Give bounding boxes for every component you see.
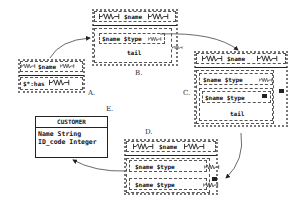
box-c-header-text: $name	[227, 55, 245, 62]
box-a-header-text: $name	[38, 63, 56, 70]
box-d-row2-text: $name $type	[135, 181, 175, 188]
box-a-body-text: $*:has	[23, 80, 45, 87]
customer-entity: CUSTOMER Name String ID_code Integer	[35, 116, 108, 158]
box-c-row2-text: $name $type	[205, 94, 245, 101]
box-a-divider	[19, 75, 84, 76]
box-c-tail: tail	[230, 110, 244, 117]
box-c-row2-marker	[262, 94, 267, 98]
box-b-tail: tail	[127, 49, 141, 56]
label-a: A.	[88, 89, 95, 97]
box-b-header-text: $name	[124, 13, 142, 20]
box-c-row1-text: $name $type	[203, 76, 243, 83]
box-d-divider	[125, 155, 217, 156]
label-d: D.	[145, 128, 153, 136]
box-d-side-marker	[212, 177, 217, 181]
customer-attr-name: Name String	[36, 130, 107, 138]
box-d-row1-text: $name $type	[135, 163, 175, 170]
label-e: E.	[106, 105, 113, 113]
label-b: B.	[135, 69, 142, 77]
label-c: C.	[183, 89, 190, 97]
box-c-divider	[195, 67, 287, 68]
customer-entity-title: CUSTOMER	[36, 117, 107, 128]
box-b-divider	[93, 25, 177, 26]
customer-attr-id-code: ID_code Integer	[36, 138, 107, 146]
box-c-side-marker	[279, 89, 284, 93]
box-d-header-text: $name	[159, 143, 177, 150]
box-b-inner-row-text: $name $type	[102, 35, 142, 42]
